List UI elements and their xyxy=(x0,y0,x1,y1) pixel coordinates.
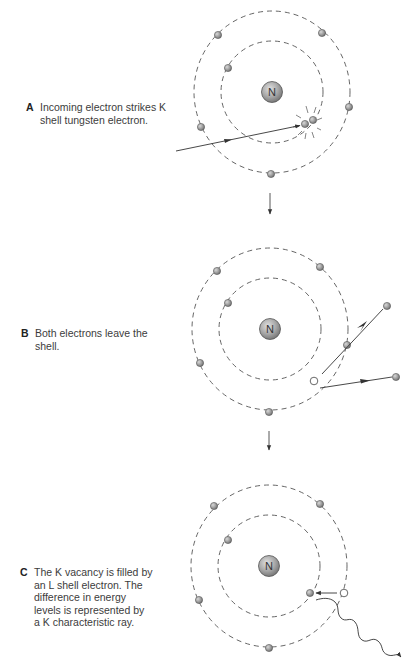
panel-a-atom: N xyxy=(176,11,353,178)
nucleus-label: N xyxy=(265,560,273,572)
electron xyxy=(316,263,323,270)
atom-diagram: N xyxy=(0,0,417,669)
ejected-electron-path-1 xyxy=(322,309,383,374)
ejected-electron-path-2 xyxy=(320,377,392,388)
nucleus: N xyxy=(260,319,281,340)
arrow-mid-icon xyxy=(357,321,367,332)
electron xyxy=(345,103,352,110)
electron xyxy=(265,644,272,651)
electron xyxy=(316,500,323,507)
incoming-electron xyxy=(301,120,308,127)
electron xyxy=(195,596,202,603)
nucleus-label: N xyxy=(268,86,276,98)
arrow-mid-icon xyxy=(224,139,232,143)
l-shell-vacancy xyxy=(340,589,348,597)
k-shell-electron xyxy=(309,116,316,123)
panel-c-atom: N xyxy=(191,485,401,657)
electron xyxy=(318,29,325,36)
electron xyxy=(224,536,231,543)
electron xyxy=(210,502,217,509)
k-shell-vacancy xyxy=(310,377,318,385)
electron xyxy=(267,170,274,177)
electron xyxy=(197,123,204,130)
ejected-electron xyxy=(392,373,399,380)
panel-b-atom: N xyxy=(192,248,400,416)
electron xyxy=(224,64,231,71)
electron xyxy=(214,31,221,38)
ejected-electron xyxy=(383,302,390,309)
arrow-mid-icon xyxy=(360,379,370,384)
electron xyxy=(196,359,203,366)
filling-electron xyxy=(306,589,313,596)
nucleus-label: N xyxy=(266,323,274,335)
electron xyxy=(265,408,272,415)
nucleus: N xyxy=(259,556,280,577)
nucleus: N xyxy=(262,82,283,103)
electron xyxy=(224,299,231,306)
characteristic-ray-wave xyxy=(316,598,401,657)
incoming-electron-path xyxy=(176,126,300,152)
electron xyxy=(213,267,220,274)
